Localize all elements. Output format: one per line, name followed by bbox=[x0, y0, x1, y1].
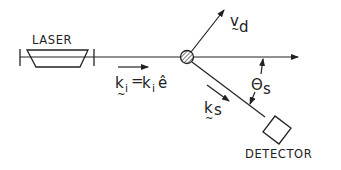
svg-text:s: s bbox=[263, 80, 271, 98]
velocity-label: v ~ d bbox=[230, 12, 249, 36]
velocity-arrow bbox=[191, 10, 224, 52]
svg-text:i: i bbox=[125, 82, 128, 95]
laser-label: LASER bbox=[32, 33, 72, 47]
detector: DETECTOR bbox=[245, 116, 312, 161]
detector-icon bbox=[263, 116, 291, 144]
svg-text:k: k bbox=[142, 74, 151, 92]
angle-arrow-top bbox=[261, 59, 263, 74]
scattering-diagram: LASER k i ~ = k i ê v ~ d DETECTOR k ~ s… bbox=[0, 0, 341, 170]
scattered-k-label: k ~ s bbox=[204, 99, 222, 124]
detector-label: DETECTOR bbox=[245, 147, 312, 161]
svg-text:~: ~ bbox=[117, 89, 125, 100]
svg-text:s: s bbox=[214, 101, 222, 119]
laser-body-icon bbox=[27, 50, 88, 67]
svg-text:ê: ê bbox=[158, 74, 167, 92]
particle-icon bbox=[181, 51, 194, 64]
laser: LASER bbox=[20, 33, 94, 67]
svg-text:~: ~ bbox=[205, 113, 213, 124]
svg-text:Θ: Θ bbox=[251, 76, 263, 94]
svg-text:i: i bbox=[152, 82, 155, 95]
svg-text:d: d bbox=[239, 18, 249, 36]
incident-k-label: k i ~ = k i ê bbox=[115, 72, 167, 100]
